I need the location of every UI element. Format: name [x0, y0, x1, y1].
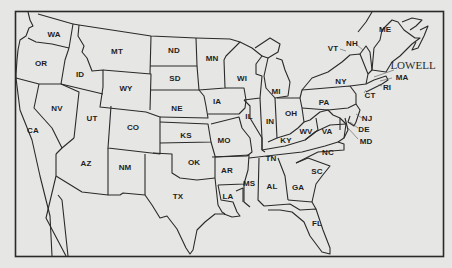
state-label-ar: AR [221, 166, 233, 175]
state-label-vt: VT [328, 44, 338, 53]
state-label-la: LA [223, 192, 234, 201]
state-label-il: IL [245, 112, 252, 121]
state-label-nm: NM [119, 163, 132, 172]
state-label-sd: SD [169, 74, 180, 83]
state-label-mi: MI [271, 87, 280, 96]
state-label-sc: SC [311, 167, 322, 176]
state-label-ia: IA [213, 97, 221, 106]
state-label-nh: NH [346, 39, 358, 48]
state-label-wa: WA [47, 30, 60, 39]
us-map-outline [0, 0, 452, 268]
state-label-ks: KS [180, 131, 191, 140]
state-label-md: MD [360, 137, 373, 146]
state-label-tn: TN [266, 154, 277, 163]
state-label-pa: PA [319, 98, 330, 107]
state-label-oh: OH [285, 109, 297, 118]
state-label-ca: CA [27, 126, 39, 135]
state-borders [16, 12, 428, 256]
state-label-nj: NJ [362, 114, 372, 123]
state-label-az: AZ [81, 159, 92, 168]
state-label-id: ID [76, 70, 84, 79]
state-label-ri: RI [383, 83, 391, 92]
map-frame [16, 12, 444, 257]
state-label-fl: FL [312, 219, 322, 228]
state-label-mo: MO [217, 136, 230, 145]
state-label-nd: ND [168, 46, 180, 55]
state-label-tx: TX [173, 192, 183, 201]
state-label-de: DE [358, 125, 369, 134]
state-label-ne: NE [171, 104, 182, 113]
state-label-nv: NV [51, 104, 62, 113]
state-label-in: IN [266, 117, 274, 126]
state-label-wi: WI [237, 74, 247, 83]
state-label-mn: MN [206, 54, 219, 63]
state-label-mt: MT [111, 47, 123, 56]
state-label-co: CO [127, 123, 139, 132]
state-label-wv: WV [299, 127, 312, 136]
state-label-ct: CT [365, 91, 376, 100]
state-label-me: ME [379, 25, 391, 34]
state-label-ga: GA [292, 183, 304, 192]
state-label-ok: OK [188, 158, 200, 167]
state-label-ky: KY [280, 136, 291, 145]
state-label-va: VA [322, 127, 333, 136]
state-label-ut: UT [87, 114, 98, 123]
city-label-lowell: LOWELL [390, 59, 435, 71]
state-label-ny: NY [335, 77, 346, 86]
state-label-al: AL [267, 182, 278, 191]
state-label-nc: NC [322, 148, 334, 157]
state-label-or: OR [35, 59, 47, 68]
us-map: WA OR ID MT WY ND SD NE MN IA NV UT CO K… [0, 0, 452, 268]
state-label-ms: MS [243, 179, 255, 188]
state-label-ma: MA [396, 73, 409, 82]
state-label-wy: WY [119, 84, 132, 93]
